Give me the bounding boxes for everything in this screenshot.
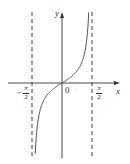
chart-container: y x 0 − π 2 π 2	[0, 0, 130, 164]
neg-sign: −	[17, 89, 22, 97]
tick-denominator: 2	[97, 94, 101, 101]
x-axis-arrow-icon	[114, 81, 120, 85]
tick-numerator: π	[97, 85, 101, 92]
tick-numerator: π	[24, 85, 28, 92]
tan-plot	[0, 0, 130, 164]
y-axis-arrow-icon	[60, 12, 64, 18]
tick-label-pi-over-2: π 2	[96, 85, 102, 101]
tick-denominator: 2	[24, 94, 28, 101]
origin-label: 0	[65, 86, 70, 95]
tick-label-neg-pi-over-2: π 2	[23, 85, 29, 101]
y-axis-label: y	[55, 9, 59, 18]
x-axis-label: x	[116, 87, 120, 96]
